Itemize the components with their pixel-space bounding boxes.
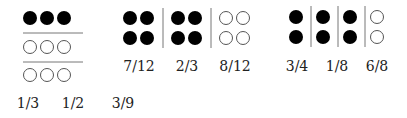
dot-empty <box>220 32 233 45</box>
dot-empty <box>58 41 71 54</box>
label-right-1: 3/4 <box>286 59 309 73</box>
dot-filled <box>289 10 303 24</box>
label-right-3: 6/8 <box>366 59 389 73</box>
dot-filled <box>171 31 185 45</box>
label-left-1: 1/3 <box>17 96 40 110</box>
dot-filled <box>140 11 154 25</box>
dot-filled <box>140 31 154 45</box>
dot-empty <box>371 31 384 44</box>
dot-empty <box>371 11 384 24</box>
dot-empty <box>41 41 54 54</box>
dot-filled <box>23 11 37 25</box>
left-grid <box>23 11 83 82</box>
label-middle-3: 8/12 <box>219 59 250 73</box>
dot-empty <box>237 32 250 45</box>
dot-empty <box>24 41 37 54</box>
dot-filled <box>171 11 185 25</box>
dot-filled <box>316 30 330 44</box>
dot-filled <box>57 11 71 25</box>
dot-filled <box>343 10 357 24</box>
dot-empty <box>24 69 37 82</box>
dot-filled <box>188 31 202 45</box>
middle-groups <box>123 8 250 48</box>
label-left-3: 3/9 <box>112 96 135 110</box>
dot-filled <box>316 10 330 24</box>
label-middle-1: 7/12 <box>123 59 154 73</box>
dot-filled <box>188 11 202 25</box>
right-groups <box>289 6 384 47</box>
dot-empty <box>58 69 71 82</box>
dot-filled <box>343 30 357 44</box>
dot-empty <box>220 12 233 25</box>
label-middle-2: 2/3 <box>176 59 199 73</box>
dot-filled <box>289 30 303 44</box>
dot-filled <box>40 11 54 25</box>
dot-empty <box>41 69 54 82</box>
label-left-2: 1/2 <box>62 96 85 110</box>
label-right-2: 1/8 <box>326 59 349 73</box>
dot-filled <box>123 11 137 25</box>
dot-filled <box>123 31 137 45</box>
dot-empty <box>237 12 250 25</box>
